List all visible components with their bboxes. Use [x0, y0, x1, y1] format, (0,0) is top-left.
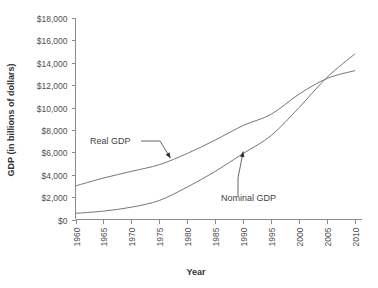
x-tick-label: 1965 — [99, 227, 109, 246]
x-tick-label: 2010 — [351, 227, 361, 246]
gdp-line-chart: $0$2,000$4,000$6,000$8,000$10,000$12,000… — [0, 0, 378, 288]
annotation-arrow-head — [240, 152, 245, 158]
annotation-arrow-head — [166, 152, 171, 158]
y-tick-label: $0 — [58, 216, 68, 226]
x-tick-label: 1960 — [72, 227, 82, 246]
x-tick-label: 1990 — [239, 227, 249, 246]
series-annotations: Real GDPNominal GDP — [90, 136, 276, 203]
x-tick-label: 1980 — [183, 227, 193, 246]
y-tick-label: $2,000 — [42, 193, 68, 203]
y-tick-label: $18,000 — [37, 14, 68, 24]
x-tick-label: 2005 — [323, 227, 333, 246]
y-tick-label: $14,000 — [37, 59, 68, 69]
x-tick-label: 1970 — [127, 227, 137, 246]
y-tick-label: $16,000 — [37, 36, 68, 46]
y-tick-label: $6,000 — [42, 148, 68, 158]
annotation-label-nominal-gdp: Nominal GDP — [221, 193, 276, 203]
series-line-real-gdp — [76, 71, 356, 186]
y-tick-label: $12,000 — [37, 81, 68, 91]
y-axis-ticks: $0$2,000$4,000$6,000$8,000$10,000$12,000… — [37, 14, 76, 226]
y-tick-label: $4,000 — [42, 171, 68, 181]
series-line-nominal-gdp — [76, 54, 356, 214]
series-group — [76, 54, 356, 214]
x-tick-label: 1995 — [267, 227, 277, 246]
x-tick-label: 1975 — [155, 227, 165, 246]
x-tick-label: 2000 — [295, 227, 305, 246]
y-tick-label: $10,000 — [37, 104, 68, 114]
x-axis-ticks: 1960196519701975198019851990199520002005… — [72, 220, 361, 247]
annotation-label-real-gdp: Real GDP — [90, 136, 131, 146]
x-axis-title: Year — [186, 267, 206, 277]
x-tick-label: 1985 — [211, 227, 221, 246]
y-axis-title: GDP (in billions of dollars) — [6, 64, 16, 177]
y-tick-label: $8,000 — [42, 126, 68, 136]
